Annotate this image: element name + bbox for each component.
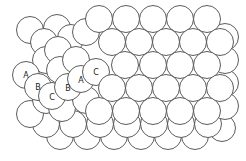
label-a-1: A <box>23 71 29 80</box>
label-b-1: B <box>35 83 41 92</box>
sphere-packing-diagram: A B C B A C <box>0 0 246 161</box>
label-b-2: B <box>65 84 71 93</box>
label-c-1: C <box>49 93 55 102</box>
diagram-canvas: A B C B A C <box>0 0 246 161</box>
label-a-2: A <box>78 76 84 85</box>
label-c-2: C <box>93 68 99 77</box>
